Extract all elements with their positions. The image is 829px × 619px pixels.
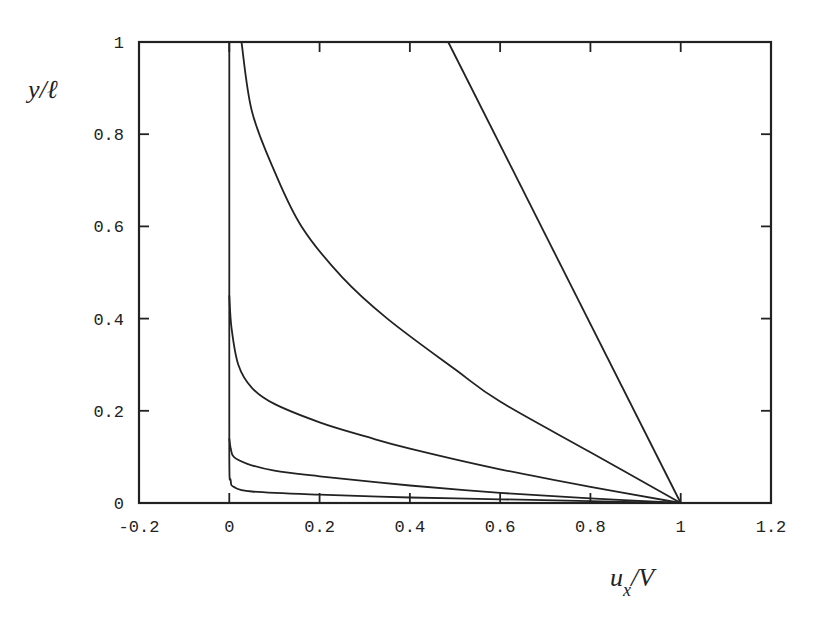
data-curves <box>229 42 680 503</box>
series-line-profile-5 <box>448 42 681 503</box>
series-line-profile-3 <box>229 296 680 504</box>
axis-ticks <box>139 42 771 503</box>
y-axis-label: y/ℓ <box>25 75 58 104</box>
x-tick-label: 0.6 <box>485 518 516 537</box>
y-tick-label: 0.2 <box>93 403 124 422</box>
x-tick-label: 1 <box>676 518 686 537</box>
plot-border <box>139 42 771 503</box>
x-tick-label: 0.8 <box>575 518 606 537</box>
x-tick-label: 0 <box>224 518 234 537</box>
y-tick-label: 0 <box>114 495 124 514</box>
y-tick-label: 0.4 <box>93 311 124 330</box>
series-line-profile-4 <box>242 42 681 503</box>
y-tick-label: 1 <box>114 34 124 53</box>
y-tick-label: 0.6 <box>93 218 124 237</box>
y-tick-label: 0.8 <box>93 126 124 145</box>
x-tick-label: 0.4 <box>395 518 426 537</box>
chart: -0.200.20.40.60.811.200.20.40.60.81 y/ℓ … <box>0 0 829 619</box>
plot-frame <box>139 42 771 503</box>
x-tick-label: 0.2 <box>304 518 335 537</box>
series-line-profile-1 <box>229 42 680 503</box>
x-axis-label: ux/V <box>610 563 657 600</box>
tick-labels: -0.200.20.40.60.811.200.20.40.60.81 <box>93 34 786 537</box>
x-tick-label: -0.2 <box>119 518 160 537</box>
x-tick-label: 1.2 <box>756 518 787 537</box>
